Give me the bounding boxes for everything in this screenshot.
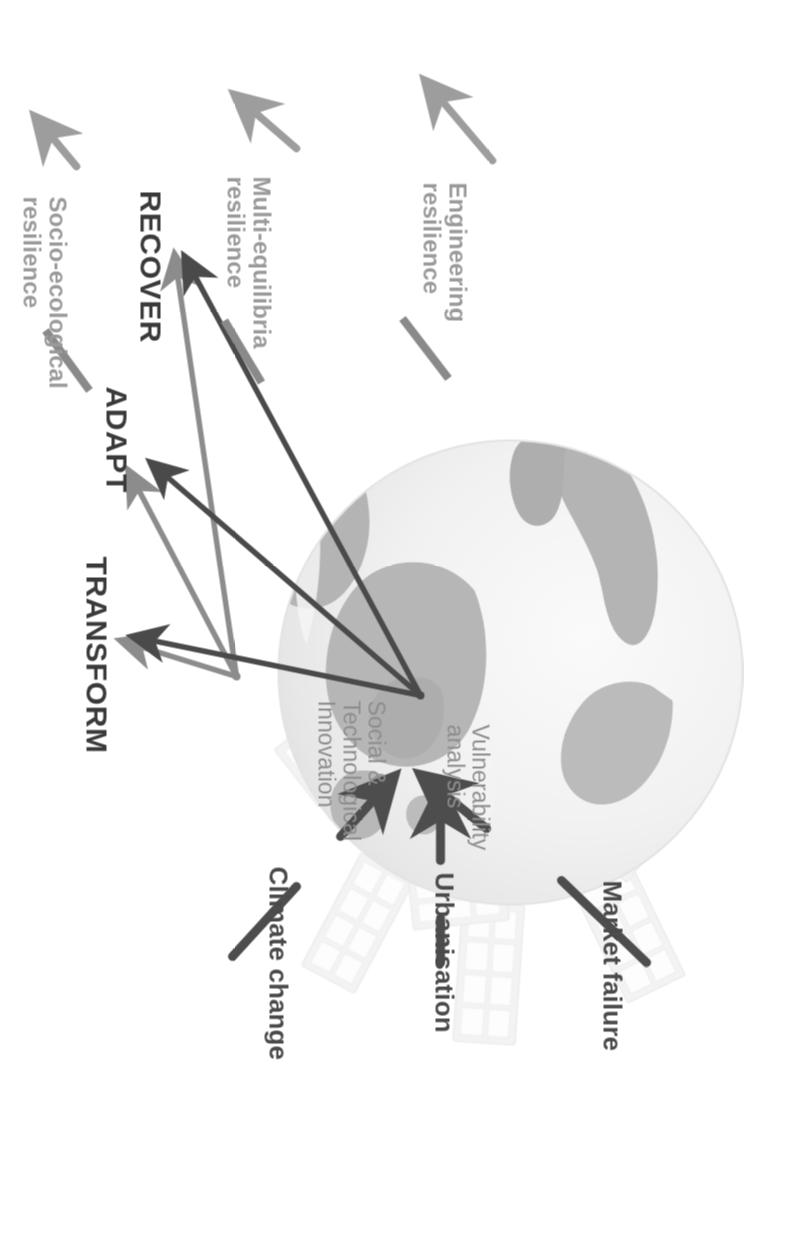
figure-graphics [0, 0, 792, 1243]
driver-label-market-failure: Market failure [598, 880, 626, 1050]
resilience-label-engineering: Engineering resilience [418, 182, 470, 322]
outcome-label-adapt: ADAPT [100, 386, 132, 492]
rotated-figure-group: Market failure Urbanisation Climate chan… [0, 0, 792, 1243]
driver-label-urbanisation: Urbanisation [430, 872, 458, 1032]
figure-canvas: Market failure Urbanisation Climate chan… [0, 0, 792, 1243]
resilience-label-multi-equilibria: Multi-equilibria resilience [222, 176, 274, 348]
mechanism-label-social-technological-innovation: Social & Technological Innovation [314, 700, 388, 841]
resilience-label-socio-ecological: Socio-ecological resilience [18, 196, 70, 388]
engineering-leader [402, 318, 448, 378]
driver-label-climate-change: Climate change [264, 866, 292, 1060]
resilience-outward-arrows [36, 82, 492, 166]
engineering-arrow [426, 82, 492, 160]
outcome-label-recover: RECOVER [134, 190, 166, 343]
socio-ecological-arrow [36, 118, 76, 166]
mechanism-label-vulnerability-analysis: Vulnerability analysis [442, 724, 492, 850]
outcome-label-transform: TRANSFORM [80, 556, 112, 753]
multi-equilibria-arrow [236, 96, 296, 148]
